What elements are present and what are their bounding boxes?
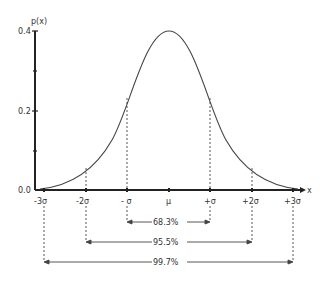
y-axis-label: p(x) [31,17,47,26]
y-tick-label: 0.0 [18,186,31,195]
x-tick-label: μ [166,197,171,206]
normal-distribution-chart: 0.4 0.2 0.0 p(x) x -3σ -2σ - σ μ +σ +2σ … [0,0,320,287]
y-tick-label: 0.4 [18,27,31,36]
x-tick-label: +3σ [284,197,301,206]
x-axis-label: x [307,186,312,195]
range-label-1sigma: 68.3% [153,218,179,227]
x-tick-label: - σ [121,197,132,206]
x-tick-label: -3σ [34,197,47,206]
distribution-curve [40,31,298,189]
y-tick-label: 0.2 [18,107,31,116]
x-axis-arrow-icon [300,187,306,193]
x-tick-label: +2σ [242,197,259,206]
range-label-2sigma: 95.5% [153,238,179,247]
x-tick-label: +σ [204,197,216,206]
range-label-3sigma: 99.7% [153,258,179,267]
x-tick-label: -2σ [76,197,89,206]
